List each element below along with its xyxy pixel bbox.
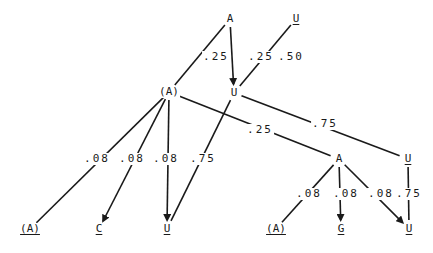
prob-label: .50 (277, 51, 305, 63)
node-u-mid: U (230, 87, 239, 99)
prob-label: .08 (152, 153, 180, 165)
tree-edge (230, 27, 233, 84)
prob-label: .25 (247, 51, 275, 63)
probability-tree-diagram: A U (A) U A U (A) C U (A) G U .25 .25 .5… (0, 0, 433, 253)
leaf-a-2: (A) (265, 223, 287, 235)
prob-label: .08 (332, 188, 360, 200)
prob-label: .75 (311, 118, 339, 130)
prob-label: .75 (395, 188, 423, 200)
leaf-g: G (337, 223, 346, 235)
prob-label: .25 (246, 124, 274, 136)
node-a-right: A (335, 153, 344, 165)
leaf-a-1: (A) (19, 223, 41, 235)
prob-label: .75 (189, 153, 217, 165)
leaf-u-1: U (163, 223, 172, 235)
prob-label: .08 (118, 153, 146, 165)
prob-label: .08 (367, 188, 395, 200)
prob-label: .25 (202, 51, 230, 63)
node-a-top: A (226, 13, 235, 25)
leaf-c: C (95, 223, 104, 235)
prob-label: .08 (83, 153, 111, 165)
node-u-top: U (292, 13, 301, 25)
edge-layer (0, 0, 433, 253)
node-a-mid: (A) (158, 86, 180, 98)
prob-label: .08 (295, 188, 323, 200)
leaf-u-2: U (405, 223, 414, 235)
node-u-right: U (404, 153, 413, 165)
